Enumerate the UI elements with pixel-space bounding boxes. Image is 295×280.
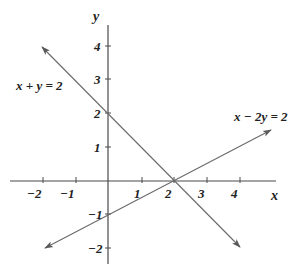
y-tick-label: −1 (88, 207, 102, 222)
equation-label-1: x + y = 2 (15, 78, 63, 93)
x-tick-label: 4 (230, 186, 238, 201)
x-tick-label: −2 (27, 186, 42, 201)
x-tick-labels: −2 −1 1 2 3 4 (27, 186, 238, 201)
coordinate-plane: x y −2 −1 1 2 3 4 4 3 2 1 −1 −2 x + y = … (0, 0, 295, 280)
y-tick-label: 3 (93, 72, 101, 87)
x-tick-label: 2 (164, 186, 172, 201)
y-tick-label: 1 (94, 140, 101, 155)
x-axis-label: x (270, 188, 278, 203)
x-tick-label: −1 (60, 186, 74, 201)
equation-label-2: x − 2y = 2 (233, 109, 288, 124)
x-tick-label: 3 (197, 186, 205, 201)
y-axis-label: y (91, 9, 100, 24)
y-tick-labels: 4 3 2 1 −1 −2 (88, 39, 103, 256)
y-tick-label: −2 (88, 241, 103, 256)
y-tick-label: 4 (93, 39, 101, 54)
x-tick-label: 1 (134, 186, 141, 201)
x-ticks (43, 177, 240, 183)
y-tick-label: 2 (93, 106, 101, 121)
line-x-plus-y-equals-2 (42, 47, 240, 247)
